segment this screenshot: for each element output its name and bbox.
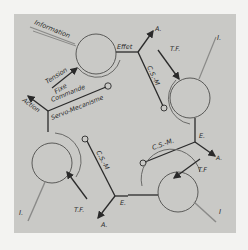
unit-2: I. T.F. E. A. C.S.-M. xyxy=(140,34,222,166)
e-label-2: E. xyxy=(199,132,205,140)
unit-3-circle xyxy=(158,172,198,212)
i-label-3: I xyxy=(219,208,221,216)
unit-3-arc xyxy=(141,149,200,186)
unit-4-arc xyxy=(55,133,81,177)
servo-loop-diagram: Information Tension Fixe Effet A. C.S.-M… xyxy=(0,0,248,250)
unit-1-circle xyxy=(76,34,116,74)
unit-2-circle xyxy=(170,78,210,118)
action-out-arrow-1 xyxy=(138,31,153,52)
e-label-3: E. xyxy=(120,199,126,207)
tf-label-3: T.F xyxy=(198,166,207,174)
unit-3: T.F I E. xyxy=(120,149,221,222)
tf-label-2: T.F. xyxy=(170,45,180,53)
a-label-4: A. xyxy=(100,221,108,229)
unit-1: Information Tension Fixe Effet A. C.S.-M… xyxy=(21,18,167,132)
action-out-arrow-4 xyxy=(98,196,115,218)
effet-label: Effet xyxy=(117,43,133,51)
input-line-2 xyxy=(199,37,216,79)
unit-4: T.F. I. C.S.-M A. xyxy=(19,133,128,229)
unit-4-circle xyxy=(32,143,72,183)
tf-arrow-2 xyxy=(158,50,179,79)
a-label-1: A. xyxy=(154,25,162,33)
tension-label: Tension xyxy=(44,66,69,86)
a-label-2: A. xyxy=(215,154,222,161)
input-line-3 xyxy=(194,202,216,222)
information-label: Information xyxy=(33,18,71,40)
csm-node-1 xyxy=(161,105,167,111)
tf-label-4: T.F. xyxy=(74,206,84,214)
action-out-arrow-2 xyxy=(195,142,215,156)
i-label-4: I. xyxy=(19,209,23,217)
i-label-2: I. xyxy=(217,34,221,42)
csm-label-1: C.S.-M xyxy=(145,64,161,87)
input-line-4 xyxy=(28,182,45,221)
tf-arrow-3 xyxy=(174,159,200,178)
commande-node xyxy=(105,83,111,89)
